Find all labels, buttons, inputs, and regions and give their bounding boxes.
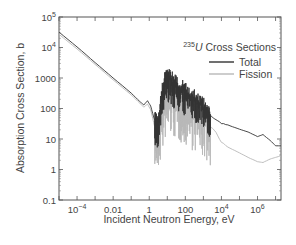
y-tick-label: 1000: [35, 73, 56, 84]
series-fission: [59, 34, 281, 165]
cross-section-chart: 10−40.0111001041060.11101001000104105 In…: [0, 0, 296, 245]
x-tick-label: 10−4: [68, 203, 87, 215]
legend-label-fission: Fission: [239, 68, 272, 80]
y-tick-label: 104: [42, 41, 57, 53]
legend-title-sup: 235: [183, 41, 195, 48]
y-axis-label: Absorption Cross Section, b: [14, 43, 26, 173]
x-tick-label: 106: [250, 203, 265, 215]
y-tick-label: 10: [45, 134, 56, 145]
x-axis-label: Incident Neutron Energy, eV: [103, 213, 234, 225]
legend: 235U Cross Sections Total Fission: [183, 41, 276, 80]
legend-title-rest: Cross Sections: [202, 41, 276, 53]
legend-title: 235U Cross Sections: [183, 41, 276, 53]
y-tick-label: 100: [40, 103, 56, 114]
y-tick-label: 105: [42, 11, 57, 23]
legend-label-total: Total: [239, 56, 261, 68]
y-tick-label: 0.1: [43, 195, 56, 206]
y-tick-label: 1: [51, 164, 56, 175]
